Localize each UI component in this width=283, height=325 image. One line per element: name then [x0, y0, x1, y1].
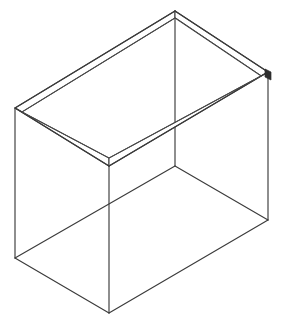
right-corner-detail-group [265, 69, 271, 80]
top-rim-thickness-group [15, 11, 268, 166]
floor-front-left-edge [15, 258, 109, 313]
floor-back-right-edge [175, 166, 268, 220]
floor-group [15, 166, 268, 313]
right-corner-tick-icon [265, 69, 271, 80]
drawing-canvas [0, 0, 283, 325]
isometric-box-drawing [0, 0, 283, 325]
floor-back-left-edge [15, 166, 175, 258]
floor-front-right-edge [109, 220, 268, 313]
vertical-edges-group [15, 11, 268, 313]
